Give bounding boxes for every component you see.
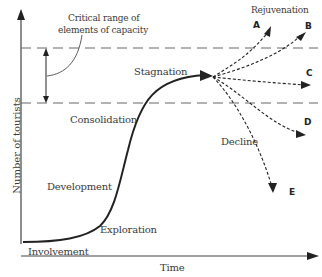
x-axis-arrow-icon xyxy=(307,252,319,260)
stage-rejuvenation: Rejuvenation xyxy=(251,5,309,15)
branch-label-c: C xyxy=(306,68,312,78)
stage-development: Development xyxy=(47,181,112,192)
y-axis-label: Number of tourists xyxy=(11,97,22,194)
growth-curve xyxy=(23,75,205,242)
y-axis-arrow-icon xyxy=(17,9,25,20)
arrow-e-icon xyxy=(268,183,277,193)
capacity-note-line1: Critical range of xyxy=(68,13,139,23)
stage-stagnation: Stagnation xyxy=(134,66,187,77)
branch-b xyxy=(213,36,300,77)
arrow-d-icon xyxy=(296,130,306,138)
branch-d xyxy=(213,77,300,133)
branch-label-b: B xyxy=(305,21,312,31)
growth-arrow-icon xyxy=(200,70,213,81)
stage-involvement: Involvement xyxy=(28,246,89,257)
lifecycle-diagram xyxy=(0,0,322,277)
branch-c xyxy=(213,77,305,85)
branch-e xyxy=(213,77,272,187)
branch-label-a: A xyxy=(253,20,260,30)
branch-a xyxy=(213,32,268,77)
arrow-c-icon xyxy=(301,81,311,89)
stage-exploration: Exploration xyxy=(100,224,157,235)
branch-label-d: D xyxy=(304,117,311,127)
branch-label-e: E xyxy=(289,187,295,197)
x-axis-label: Time xyxy=(160,262,184,273)
stage-decline: Decline xyxy=(221,136,258,147)
capacity-note-line2: elements of capacity xyxy=(58,25,148,35)
range-up-arrow-icon xyxy=(43,48,49,56)
note-leader-line xyxy=(47,35,82,76)
stage-consolidation: Consolidation xyxy=(70,114,137,125)
arrow-b-icon xyxy=(296,32,306,41)
range-down-arrow-icon xyxy=(43,96,49,103)
